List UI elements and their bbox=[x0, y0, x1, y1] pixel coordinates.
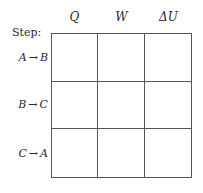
cell-bc-q[interactable] bbox=[52, 82, 98, 130]
column-header-delta-u: ΔU bbox=[145, 10, 192, 24]
arrow-icon: → bbox=[28, 98, 37, 111]
row-to: B bbox=[40, 51, 48, 64]
cell-ca-w[interactable] bbox=[98, 129, 144, 177]
cell-ca-du[interactable] bbox=[145, 129, 191, 177]
arrow-icon: → bbox=[29, 51, 38, 64]
step-label: Step: bbox=[12, 26, 41, 39]
row-from: B bbox=[18, 98, 26, 111]
column-header-w: W bbox=[98, 10, 145, 24]
cell-bc-w[interactable] bbox=[98, 82, 144, 130]
arrow-icon: → bbox=[29, 147, 38, 160]
row-to: A bbox=[40, 147, 48, 160]
cell-ab-q[interactable] bbox=[52, 34, 98, 82]
row-to: C bbox=[40, 98, 48, 111]
row-label-c-to-a: C→A bbox=[18, 147, 48, 160]
process-table-grid bbox=[51, 33, 192, 178]
cell-ab-w[interactable] bbox=[98, 34, 144, 82]
cell-ab-du[interactable] bbox=[145, 34, 191, 82]
row-label-b-to-c: B→C bbox=[18, 98, 48, 111]
row-label-a-to-b: A→B bbox=[19, 51, 48, 64]
cell-bc-du[interactable] bbox=[145, 82, 191, 130]
cell-ca-q[interactable] bbox=[52, 129, 98, 177]
column-header-q: Q bbox=[51, 10, 98, 24]
row-from: C bbox=[18, 147, 26, 160]
row-from: A bbox=[19, 51, 27, 64]
